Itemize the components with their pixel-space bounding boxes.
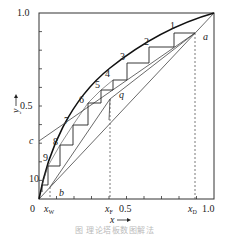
stage-label-1: 1 [170, 20, 175, 31]
stage-label-8: 8 [53, 136, 58, 147]
y-axis-arrowhead-icon [14, 94, 18, 98]
origin-label: 0 [30, 203, 35, 214]
x-axis-arrowhead-icon [127, 218, 131, 222]
xw-label: xW [43, 203, 54, 215]
stage-label-2: 2 [144, 36, 149, 47]
stage-hatch [42, 80, 113, 185]
point-a-label: a [203, 31, 208, 42]
y-tick-0.5: 0.5 [20, 100, 33, 111]
figure-caption: 图 理论塔板数图解法 [0, 224, 229, 235]
stage-label-4: 4 [105, 68, 110, 79]
diagonal-line [39, 13, 214, 199]
stage-label-10: 10 [29, 173, 39, 184]
stage-label-9: 9 [43, 152, 48, 163]
stage-label-6: 6 [79, 94, 84, 105]
mccabe-thiele-diagram: 1 2 3 4 5 6 7 8 9 10 a b c q 1.0 0.5 0 0… [0, 0, 229, 236]
stage-label-7: 7 [64, 115, 69, 126]
x-tick-0.5: 0.5 [119, 203, 132, 214]
stage-label-5: 5 [95, 79, 100, 90]
y-tick-1.0: 1.0 [17, 7, 30, 18]
stage-label-3: 3 [120, 51, 125, 62]
q-line-label: q [119, 89, 124, 100]
stage-staircase [42, 33, 195, 192]
xd-label: xD [187, 203, 197, 215]
point-b-label: b [59, 187, 64, 198]
rectifying-operating-line [39, 33, 195, 141]
y-axis-label: y [10, 108, 21, 114]
x-tick-1.0: 1.0 [202, 203, 215, 214]
stage-labels: 1 2 3 4 5 6 7 8 9 10 [29, 20, 175, 184]
point-c-label: c [29, 135, 34, 146]
